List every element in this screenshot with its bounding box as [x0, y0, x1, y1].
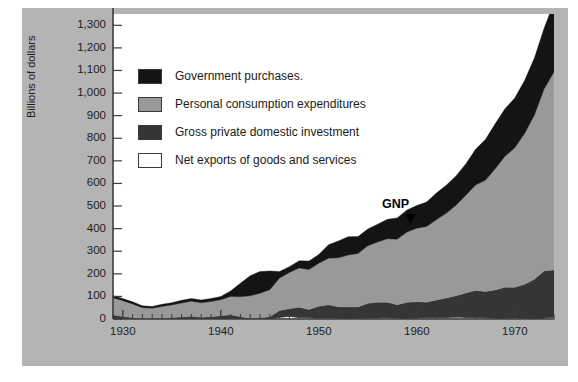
legend-item-label: Personal consumption expenditures: [175, 97, 366, 111]
y-axis-tick-label: 1,300: [44, 19, 106, 30]
legend-swatch-government-purchases: [138, 69, 162, 84]
y-axis-tick-label: 600: [44, 177, 106, 188]
x-axis-tick-label: 1960: [391, 325, 443, 337]
y-axis-tick-label: 1,100: [44, 64, 106, 75]
legend-swatch-private-investment: [138, 125, 162, 140]
legend-item: Net exports of goods and services: [138, 146, 366, 174]
x-axis-tick-label: 1930: [97, 325, 149, 337]
x-axis-tick-label: 1970: [489, 325, 541, 337]
y-axis-tick-label: 800: [44, 132, 106, 143]
y-axis-tick-label: 900: [44, 110, 106, 121]
legend-item: Government purchases.: [138, 62, 366, 90]
legend-swatch-personal-consumption: [138, 97, 162, 112]
y-axis-tick-label: 300: [44, 245, 106, 256]
legend-item: Gross private domestic investment: [138, 118, 366, 146]
y-axis-tick-label: 100: [44, 290, 106, 301]
y-axis-tick-label: 500: [44, 200, 106, 211]
y-axis-tick-label: 0: [44, 313, 106, 324]
y-axis-tick-label: 1,200: [44, 42, 106, 53]
legend: Government purchases.Personal consumptio…: [138, 62, 366, 174]
legend-item-label: Government purchases.: [175, 69, 303, 83]
figure: Billions of dollars 01002003004005006007…: [0, 0, 578, 382]
gnp-annotation-label: GNP: [382, 197, 409, 211]
y-axis-tick-label: 400: [44, 223, 106, 234]
x-axis-tick-label: 1950: [293, 325, 345, 337]
x-axis-tick-label: 1940: [195, 325, 247, 337]
y-axis-tick-label: 200: [44, 268, 106, 279]
gnp-arrow-icon: [404, 212, 420, 228]
legend-item: Personal consumption expenditures: [138, 90, 366, 118]
legend-item-label: Net exports of goods and services: [175, 153, 356, 167]
y-axis-tick-label: 1,000: [44, 87, 106, 98]
legend-swatch-net-exports: [138, 153, 162, 168]
y-axis-title: Billions of dollars: [25, 8, 37, 118]
y-axis-tick-label: 700: [44, 155, 106, 166]
legend-item-label: Gross private domestic investment: [175, 125, 359, 139]
